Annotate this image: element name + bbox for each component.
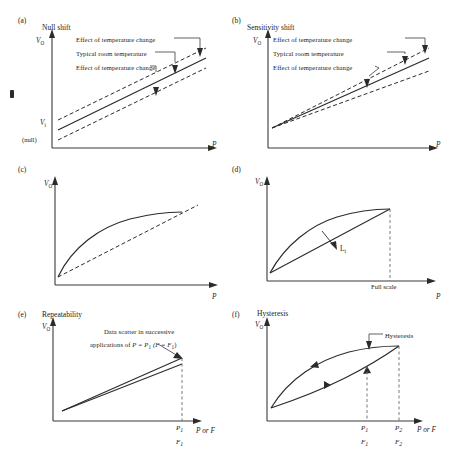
panel-f-y-arrowhead — [264, 317, 270, 326]
panel-b-leader-2 — [387, 52, 405, 54]
panel-b: (b) Sensitivity shift VO P Effect of tem… — [227, 0, 453, 153]
panel-a-lower-dashed-line — [58, 68, 206, 140]
figure-container: (a) Null shift VO P Vi (null) Effect of … — [0, 0, 453, 461]
panel-a-x-arrowhead — [208, 145, 217, 151]
panel-d-x-arrowhead — [427, 278, 436, 284]
panel-f-loading-branch — [271, 346, 399, 408]
panel-e-run2-line — [62, 364, 182, 411]
panel-b-y-arrowhead — [265, 29, 271, 38]
panel-c: (c) VO P — [0, 155, 226, 308]
panel-a-leader-2 — [155, 52, 175, 62]
panel-d: (d) VO P Full scale Li — [227, 155, 453, 308]
panel-e: (e) Repeatability VO P or F Data scatter… — [0, 308, 226, 461]
panel-a-y-arrowhead — [49, 29, 55, 38]
panel-e-leader — [158, 344, 178, 356]
panel-a-leader-1-arrowhead — [197, 48, 203, 57]
panel-c-x-arrowhead — [209, 282, 218, 288]
panel-d-y-arrowhead — [264, 176, 270, 185]
panel-a-leader-1 — [174, 38, 200, 50]
panel-a-leader-3 — [150, 66, 156, 72]
panel-d-plot — [227, 155, 453, 308]
panel-f-unloading-branch — [271, 346, 399, 408]
panel-b-x-arrowhead — [429, 145, 438, 151]
panel-f-callout-leader — [369, 334, 383, 342]
panel-e-y-arrowhead — [50, 317, 56, 326]
panel-b-leader-1-arrowhead — [422, 45, 428, 54]
panel-a-plot — [0, 0, 226, 153]
panel-b-plot — [227, 0, 453, 153]
panel-f-plot — [227, 308, 453, 461]
panel-e-x-arrowhead — [193, 418, 202, 424]
panel-c-best-fit-line — [58, 205, 198, 277]
panel-c-plot — [0, 155, 226, 308]
panel-f-lower-direction-arrowhead — [324, 381, 331, 389]
panel-b-lower-dashed-line — [272, 71, 429, 128]
panel-f-x-arrowhead — [414, 418, 423, 424]
panel-e-run1-line — [62, 358, 182, 411]
panel-b-solid-line — [272, 58, 429, 128]
panel-a-solid-line — [58, 58, 206, 130]
panel-f: (f) Hysteresis VO P or F Hysteresis P1 F… — [227, 308, 453, 461]
panel-a-upper-dashed-line — [58, 48, 206, 120]
panel-f-upper-direction-arrowhead — [310, 361, 319, 368]
panel-b-leader-2-arrowhead — [402, 56, 408, 65]
panel-e-plot — [0, 308, 226, 461]
panel-e-leader-arrowhead — [173, 352, 183, 359]
panel-b-leader-1 — [405, 38, 425, 46]
panel-c-y-arrowhead — [52, 176, 58, 185]
panel-a: (a) Null shift VO P Vi (null) Effect of … — [0, 0, 226, 153]
